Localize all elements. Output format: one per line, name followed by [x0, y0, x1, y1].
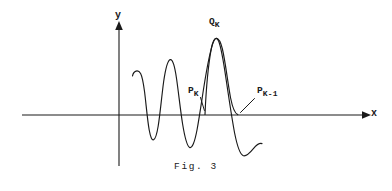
label-q-k-subscript: K [215, 20, 220, 29]
figure-3: y x QK PK PK-1 Fig. 3 [0, 0, 392, 191]
x-axis [22, 111, 371, 119]
figure-caption: Fig. 3 [0, 161, 392, 172]
y-axis-label: y [115, 11, 121, 21]
label-q-k: QK [209, 17, 220, 29]
label-p-k-minus-1: PK-1 [257, 86, 278, 98]
label-p-k-subscript: K [194, 89, 199, 98]
y-axis-arrow-icon [115, 21, 123, 30]
x-axis-arrow-icon [362, 111, 371, 119]
label-p-k-minus-1-subscript: K-1 [263, 89, 278, 98]
y-axis [115, 21, 123, 166]
label-p-k: PK [188, 86, 199, 98]
p-k-minus-1-leader-line [241, 99, 255, 113]
x-axis-label: x [371, 109, 377, 119]
